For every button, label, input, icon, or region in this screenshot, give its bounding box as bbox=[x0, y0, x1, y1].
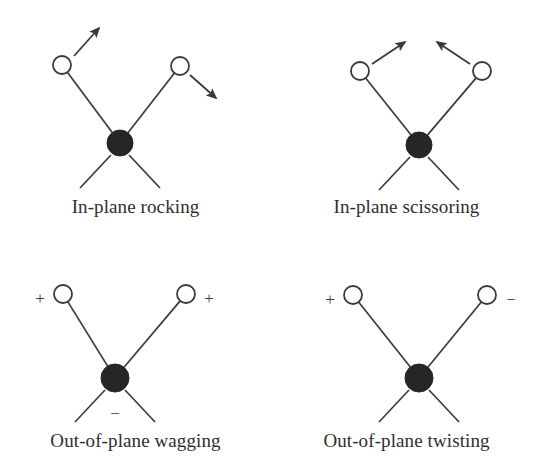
bond-carbon-hydrogen bbox=[124, 301, 180, 367]
bond-substituent-leg bbox=[80, 155, 111, 188]
hydrogen-atom bbox=[344, 286, 362, 304]
hydrogen-atom bbox=[177, 285, 195, 303]
panel-in-plane-rocking: In-plane rocking bbox=[0, 0, 271, 233]
bond-substituent-leg bbox=[379, 390, 409, 422]
bond-substituent-leg bbox=[125, 390, 155, 422]
hydrogen-atom bbox=[473, 62, 491, 80]
phase-sign-negative: − bbox=[110, 404, 120, 423]
panel-caption-in-plane-scissoring: In-plane scissoring bbox=[271, 196, 542, 218]
bond-carbon-hydrogen bbox=[128, 73, 174, 133]
motion-arrow bbox=[190, 75, 216, 98]
carbon-atom bbox=[101, 364, 129, 392]
bond-substituent-leg bbox=[129, 155, 160, 188]
bond-carbon-hydrogen bbox=[366, 78, 411, 135]
bond-carbon-hydrogen bbox=[359, 302, 411, 367]
bond-substituent-leg bbox=[428, 157, 459, 190]
panel-caption-out-of-plane-twisting: Out-of-plane twisting bbox=[271, 430, 542, 452]
motion-arrow bbox=[372, 42, 405, 64]
phase-sign-negative: − bbox=[506, 290, 516, 309]
bond-carbon-hydrogen bbox=[67, 72, 112, 132]
carbon-atom bbox=[406, 132, 432, 158]
panel-caption-in-plane-rocking: In-plane rocking bbox=[0, 196, 271, 218]
hydrogen-atom bbox=[54, 285, 72, 303]
panel-out-of-plane-wagging: ++−Out-of-plane wagging bbox=[0, 234, 271, 467]
hydrogen-atom bbox=[171, 57, 189, 75]
hydrogen-atom bbox=[351, 62, 369, 80]
bond-carbon-hydrogen bbox=[428, 302, 481, 367]
carbon-atom bbox=[405, 364, 433, 392]
phase-sign-positive: + bbox=[204, 289, 214, 308]
panel-caption-out-of-plane-wagging: Out-of-plane wagging bbox=[0, 430, 271, 452]
bond-substituent-leg bbox=[429, 390, 459, 422]
bond-substituent-leg bbox=[379, 157, 410, 190]
vibration-modes-figure: In-plane rockingIn-plane scissoring++−Ou… bbox=[0, 0, 542, 467]
hydrogen-atom bbox=[53, 56, 71, 74]
bond-substituent-leg bbox=[75, 390, 105, 422]
motion-arrow bbox=[437, 42, 470, 64]
phase-sign-positive: + bbox=[325, 290, 335, 309]
panel-in-plane-scissoring: In-plane scissoring bbox=[271, 0, 542, 233]
panel-out-of-plane-twisting: +−Out-of-plane twisting bbox=[271, 234, 542, 467]
bond-carbon-hydrogen bbox=[68, 302, 108, 366]
motion-arrow bbox=[74, 28, 99, 56]
phase-sign-positive: + bbox=[35, 289, 45, 308]
bond-carbon-hydrogen bbox=[427, 78, 476, 135]
carbon-atom bbox=[107, 130, 133, 156]
hydrogen-atom bbox=[478, 286, 496, 304]
